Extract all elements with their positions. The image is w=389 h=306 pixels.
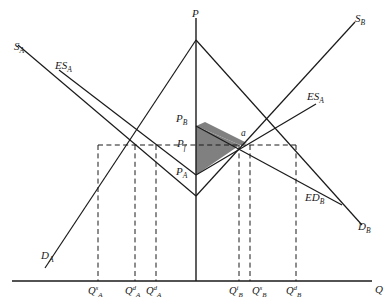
price-pa-label: PA <box>176 166 187 177</box>
qb-d-label: QdB <box>286 286 301 297</box>
qa-s-label: QsA <box>88 286 103 297</box>
p-axis-label: P <box>192 8 199 19</box>
demand-b-label: DB <box>358 221 371 232</box>
equilibrium-point-label: a <box>241 129 246 139</box>
demand-a-label: DA <box>41 250 54 261</box>
price-pb-label: PB <box>176 113 187 124</box>
supply-b-label: SB <box>355 13 365 24</box>
qa-d2-label: QdA <box>146 286 161 297</box>
supply-a-label: SA <box>14 41 24 52</box>
qb-i-label: QiB <box>229 286 243 297</box>
supply-b-curve <box>196 22 355 196</box>
diagram-canvas <box>0 0 389 306</box>
export-supply-a-right-label: ESA <box>307 91 324 102</box>
qa-d1-label: QdA <box>125 286 140 297</box>
import-demand-b-label: EDB <box>305 192 324 203</box>
supply-a-curve <box>45 40 196 268</box>
qb-s-label: QsB <box>252 286 267 297</box>
q-axis-label: Q <box>375 284 383 295</box>
export-supply-a-label: ESA <box>55 60 72 71</box>
price-pf-label: Pf <box>177 138 186 149</box>
trade-equilibrium-diagram: P Q PB Pf PA a SA ESA DA SB ESA EDB DB Q… <box>0 0 389 306</box>
